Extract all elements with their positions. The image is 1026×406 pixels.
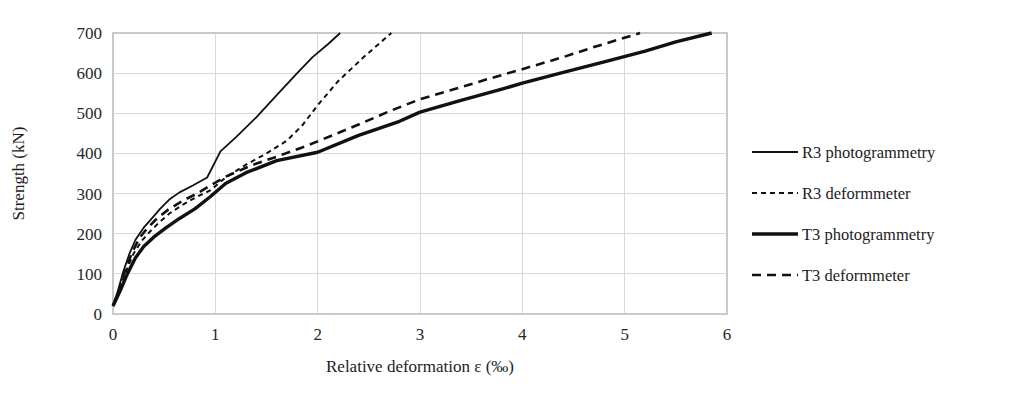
chart-background <box>0 0 1026 406</box>
y-tick-label: 600 <box>77 64 103 83</box>
y-tick-label: 700 <box>77 24 103 43</box>
x-tick-label: 4 <box>518 325 527 344</box>
x-tick-label: 3 <box>416 325 425 344</box>
legend-label-3: T3 photogrammetry <box>802 225 935 244</box>
x-axis-title: Relative deformation ε (‰) <box>326 357 514 376</box>
y-tick-label: 300 <box>77 185 103 204</box>
x-tick-label: 0 <box>109 325 118 344</box>
legend-label-2: R3 deformmeter <box>802 184 911 203</box>
legend-label-1: R3 photogrammetry <box>802 143 936 162</box>
strength-deformation-chart: 0123456 0100200300400500600700 Relative … <box>0 0 1026 406</box>
x-tick-label: 6 <box>723 325 732 344</box>
x-tick-label: 1 <box>211 325 220 344</box>
y-tick-label: 0 <box>94 305 103 324</box>
legend-label-4: T3 deformmeter <box>802 266 910 285</box>
y-axis-title: Strength (kN) <box>9 127 28 221</box>
y-tick-label: 200 <box>77 225 103 244</box>
y-tick-label: 400 <box>77 144 103 163</box>
y-tick-label: 500 <box>77 104 103 123</box>
x-tick-label: 2 <box>313 325 322 344</box>
chart-figure: 0123456 0100200300400500600700 Relative … <box>0 0 1026 406</box>
y-tick-label: 100 <box>77 265 103 284</box>
x-tick-label: 5 <box>620 325 629 344</box>
